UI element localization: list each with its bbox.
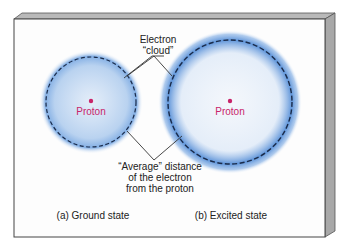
ground-proton-dot	[89, 99, 93, 103]
avg-line1: “Average” distance	[110, 161, 210, 172]
average-distance-label: “Average” distance of the electron from …	[110, 161, 210, 194]
excited-state-caption: (b) Excited state	[186, 210, 276, 221]
avg-line2: of the electron	[110, 172, 210, 183]
frame-right-side	[325, 13, 335, 237]
avg-line3: from the proton	[110, 183, 210, 194]
electron-cloud-line1: Electron	[128, 34, 188, 45]
electron-cloud-line2: “cloud”	[128, 45, 188, 56]
electron-cloud-label: Electron “cloud”	[128, 34, 188, 56]
excited-proton-dot	[228, 99, 232, 103]
ground-state-caption: (a) Ground state	[48, 210, 138, 221]
ground-proton-label: Proton	[66, 106, 116, 117]
frame-top-bevel	[14, 13, 335, 19]
excited-proton-label: Proton	[205, 106, 255, 117]
